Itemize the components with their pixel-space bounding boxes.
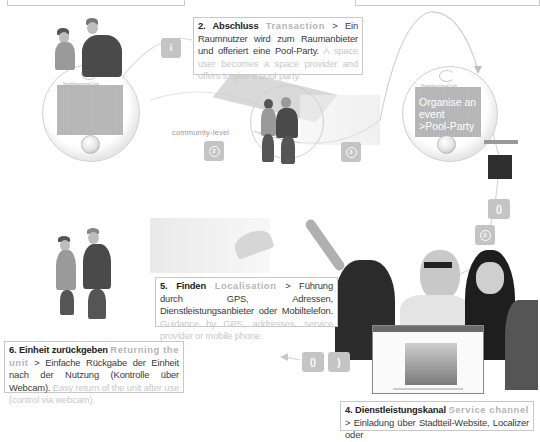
caption-step-4: 4. Dienstleistungskanal Service channel …	[340, 401, 534, 431]
caption-heading: 2. Abschluss	[198, 20, 259, 31]
caption-step-6: 6. Einheit zurückgeben Returning the uni…	[4, 341, 184, 393]
caption-step-5: 5. Finden Localisation > Führung durch G…	[155, 277, 338, 327]
caption-heading-en: Transaction	[266, 20, 325, 31]
step-button-3[interactable]: 3	[341, 142, 361, 162]
step-button-5[interactable]: 3	[475, 225, 495, 245]
number-3-icon: 3	[480, 230, 491, 241]
community-level-label: community-level	[172, 128, 229, 137]
signal-icon: ()	[496, 204, 502, 214]
caption-heading-en: Service channel	[448, 404, 529, 415]
device-screen: Organise an event >Pool-Party	[415, 87, 481, 137]
info-icon: i	[170, 43, 173, 53]
website-screenshot	[372, 325, 484, 394]
device-screen	[57, 85, 123, 135]
caption-step-2: 2. Abschluss Transaction > Ein Raumnutze…	[193, 17, 363, 75]
number-2-icon: 2	[209, 146, 220, 157]
step-button-7[interactable]: )	[328, 352, 350, 372]
signal-icon: ()	[310, 357, 316, 367]
caption-heading: 6. Einheit zurückgeben	[9, 344, 108, 355]
step-button-6[interactable]: ()	[302, 352, 324, 372]
caption-text-de: > Einladung über Stadtteil-Website, Loca…	[345, 417, 529, 441]
step-button-4[interactable]: ()	[488, 199, 510, 219]
caption-heading-en: Localisation	[215, 280, 277, 291]
device-knob[interactable]	[81, 135, 100, 154]
caption-heading: 4. Dienstleistungskanal	[345, 404, 446, 415]
handheld-device-3: Neighbourhood-Link Organise an event >Po…	[402, 66, 498, 162]
indicator-bar	[484, 140, 518, 144]
caption-heading: 5. Finden	[160, 280, 206, 291]
swirl-icon	[439, 70, 455, 82]
step-button-1[interactable]: i	[161, 38, 181, 58]
number-3-icon: 3	[346, 147, 357, 158]
website-photo	[405, 343, 457, 385]
website-header	[373, 326, 483, 332]
device-knob[interactable]	[437, 135, 456, 154]
step-button-2[interactable]: 2	[204, 141, 224, 161]
screen-text: Organise an event >Pool-Party	[419, 96, 476, 132]
map-thumbnail	[488, 155, 512, 179]
handheld-device-1: Neighbourhood-Link	[42, 64, 140, 162]
phone-icon: )	[337, 357, 340, 368]
